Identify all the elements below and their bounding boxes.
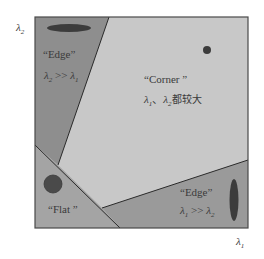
corner-title: “Corner ” <box>144 73 187 85</box>
vertical-ellipse-icon <box>230 179 239 221</box>
small-dot-icon <box>203 46 211 54</box>
edge-top-title: “Edge” <box>43 48 75 60</box>
harris-response-diagram: λ2 λ1 “Edge” λ2 >> λ1 “Corner ” λ1、λ2都较大… <box>0 0 264 259</box>
flat-title: “Flat ” <box>48 203 78 215</box>
edge-bottom-title: “Edge” <box>180 186 212 198</box>
horizontal-ellipse-icon <box>47 24 91 32</box>
y-axis-label: λ2 <box>15 21 25 36</box>
x-axis-label: λ1 <box>235 235 244 250</box>
large-circle-icon <box>44 175 62 193</box>
